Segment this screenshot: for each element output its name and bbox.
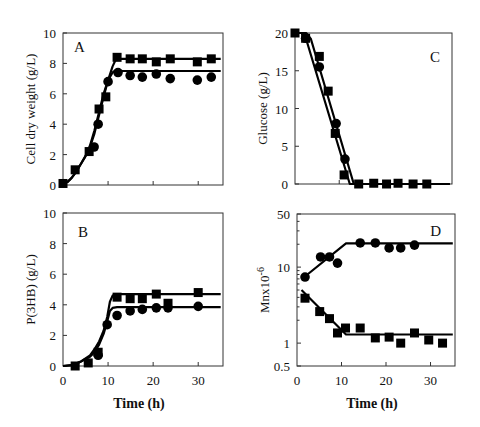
data-point-square xyxy=(194,288,203,297)
data-point-square xyxy=(325,314,334,323)
y-tick-label: 4 xyxy=(50,298,57,313)
y-tick-label: 0 xyxy=(282,177,289,192)
data-point-circle xyxy=(125,71,135,81)
data-point-circle xyxy=(384,243,394,253)
data-point-circle xyxy=(333,258,343,268)
x-tick-label: 0 xyxy=(294,373,301,388)
data-point-circle xyxy=(138,72,148,82)
y-axis-title: Glucose (g/L) xyxy=(255,72,270,145)
data-point-circle xyxy=(93,350,103,360)
data-point-circle xyxy=(138,305,148,315)
data-point-circle xyxy=(355,238,365,248)
data-point-square xyxy=(333,328,342,337)
panel-letter: A xyxy=(74,39,85,55)
data-point-square xyxy=(113,53,122,62)
y-tick-label: 10 xyxy=(43,26,56,41)
data-point-square xyxy=(371,333,380,342)
data-point-circle xyxy=(325,252,335,262)
y-axis-title: Cell dry weight (g/L) xyxy=(23,54,38,165)
figure: 0246810Cell dry weight (g/L)A05101520Glu… xyxy=(0,0,480,427)
series-squares xyxy=(301,290,453,348)
y-axis-title-superscript: -6 xyxy=(255,267,266,275)
y-tick-label: 0 xyxy=(50,178,57,193)
y-axis-title-text: Mnx10 xyxy=(257,275,272,313)
y-tick-label: 50 xyxy=(277,207,290,222)
data-point-square xyxy=(410,328,419,337)
data-point-square xyxy=(166,54,175,63)
data-point-circle xyxy=(371,238,381,248)
data-point-square xyxy=(126,294,135,303)
y-tick-label: 4 xyxy=(50,117,57,132)
series-squares xyxy=(59,53,221,188)
y-axis-title: Mnx10-6 xyxy=(255,267,272,313)
data-point-square xyxy=(152,57,161,66)
data-point-square xyxy=(301,294,310,303)
data-point-circle xyxy=(300,272,310,282)
y-tick-label: 2 xyxy=(50,328,57,343)
data-point-square xyxy=(396,339,405,348)
panel-c: 05101520Glucose (g/L)C xyxy=(255,26,452,192)
data-point-circle xyxy=(301,33,311,43)
y-tick-label: 0 xyxy=(50,359,57,374)
series-circles xyxy=(300,238,453,282)
y-tick-label: 2 xyxy=(50,148,57,163)
data-point-circle xyxy=(410,240,420,250)
y-tick-label: 8 xyxy=(50,56,57,71)
y-tick-label: 15 xyxy=(275,64,288,79)
data-point-circle xyxy=(206,72,216,82)
data-point-square xyxy=(424,335,433,344)
x-tick-label: 30 xyxy=(192,373,205,388)
data-point-square xyxy=(341,324,350,333)
data-point-square xyxy=(138,54,147,63)
data-point-circle xyxy=(396,243,406,253)
data-point-square xyxy=(193,57,202,66)
data-point-circle xyxy=(125,306,135,316)
data-point-circle xyxy=(93,119,103,129)
y-tick-label: 10 xyxy=(43,206,56,221)
data-point-square xyxy=(113,293,122,302)
data-point-circle xyxy=(315,62,325,72)
data-point-square xyxy=(385,333,394,342)
x-tick-label: 10 xyxy=(335,373,348,388)
data-point-circle xyxy=(193,302,203,312)
y-tick-label: 20 xyxy=(275,26,288,41)
data-point-square xyxy=(152,290,161,299)
data-point-circle xyxy=(340,154,350,164)
y-tick-label: 5 xyxy=(282,139,289,154)
data-point-square xyxy=(356,324,365,333)
y-axis-title-text: Glucose (g/L) xyxy=(255,72,270,145)
y-tick-label: 6 xyxy=(50,267,57,282)
fit-line-circles xyxy=(63,71,221,184)
data-point-circle xyxy=(165,74,175,84)
y-axis-title: P(3HB) (g/L) xyxy=(23,254,38,324)
y-tick-label: 1 xyxy=(284,336,291,351)
y-tick-label: 0.5 xyxy=(274,359,290,374)
y-axis-title-text: Cell dry weight (g/L) xyxy=(23,54,38,165)
data-point-circle xyxy=(151,69,161,79)
panel-letter: D xyxy=(430,223,441,239)
data-point-circle xyxy=(316,252,326,262)
x-tick-label: 30 xyxy=(424,373,437,388)
x-tick-label: 20 xyxy=(380,373,393,388)
data-point-square xyxy=(138,294,147,303)
data-point-circle xyxy=(151,303,161,313)
data-point-circle xyxy=(331,119,341,129)
data-point-circle xyxy=(163,303,173,313)
data-point-square xyxy=(126,54,135,63)
fit-line-circles xyxy=(304,243,453,277)
data-point-circle xyxy=(193,75,203,85)
data-point-square xyxy=(438,339,447,348)
y-tick-label: 10 xyxy=(275,102,288,117)
panel-a: 0246810Cell dry weight (g/L)A xyxy=(23,26,223,193)
y-axis-title-text: P(3HB) (g/L) xyxy=(23,254,38,324)
data-point-circle xyxy=(113,68,123,78)
panel-d: 01020300.511050Mnx10-6Time (h)D xyxy=(255,207,455,412)
x-tick-label: 10 xyxy=(102,373,115,388)
panel-letter: C xyxy=(430,49,440,65)
y-tick-label: 6 xyxy=(50,87,57,102)
x-axis-title: Time (h) xyxy=(346,396,398,412)
x-axis-title: Time (h) xyxy=(113,396,165,412)
panel-letter: B xyxy=(78,224,88,240)
panel-b: 01020300246810P(3HB) (g/L)Time (h)B xyxy=(23,206,223,412)
data-point-circle xyxy=(89,142,99,152)
